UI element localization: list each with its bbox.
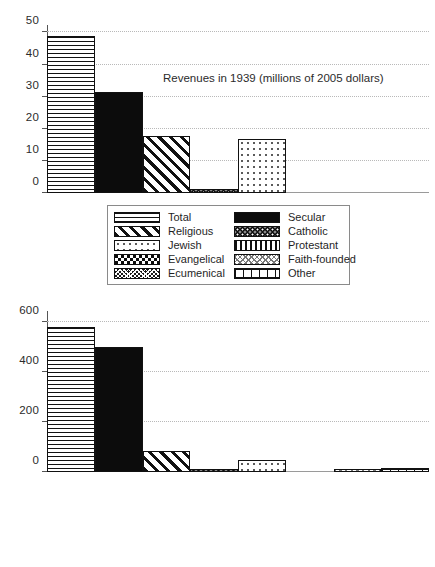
legend-label-other-1939: Other bbox=[288, 268, 360, 279]
bar-jewish-1939 bbox=[238, 139, 286, 193]
y-tick-label-0-1939: 0 bbox=[5, 175, 39, 187]
legend-swatch-ecumenical-1939 bbox=[114, 268, 160, 279]
bar-religious-1939 bbox=[143, 136, 191, 193]
bar-series-1941 bbox=[47, 312, 429, 472]
y-tick-label-400-1941: 400 bbox=[5, 354, 39, 366]
bar-total-1939 bbox=[47, 36, 95, 193]
y-tick-label-20-1939: 20 bbox=[5, 111, 39, 123]
plot-area-1941: 0200400600 bbox=[47, 312, 429, 472]
bar-catholic-1941 bbox=[190, 469, 238, 472]
plot-area-1939: 01020304050 bbox=[47, 26, 429, 193]
legend-swatch-catholic-1939 bbox=[234, 226, 280, 237]
legend-label-ecumenical-1939: Ecumenical bbox=[168, 268, 230, 279]
bar-secular-1939 bbox=[95, 92, 143, 193]
legend-grid-1939: TotalSecularReligiousCatholicJewishProte… bbox=[114, 210, 343, 281]
y-tick-label-10-1939: 10 bbox=[5, 143, 39, 155]
bar-faith-founded-1941 bbox=[334, 469, 382, 472]
legend-swatch-other-1939 bbox=[234, 268, 280, 279]
chart-revenues-1939: Revenues in 1939 (millions of 2005 dolla… bbox=[0, 0, 435, 290]
legend-label-faith-founded-1939: Faith-founded bbox=[288, 254, 360, 265]
legend-label-protestant-1939: Protestant bbox=[288, 240, 360, 251]
legend-label-catholic-1939: Catholic bbox=[288, 226, 360, 237]
bar-religious-1941 bbox=[143, 451, 191, 472]
bar-jewish-1941 bbox=[238, 460, 286, 472]
legend-swatch-religious-1939 bbox=[114, 226, 160, 237]
legend-swatch-faith-founded-1939 bbox=[234, 254, 280, 265]
y-tick-label-40-1939: 40 bbox=[5, 47, 39, 59]
legend-swatch-secular-1939 bbox=[234, 212, 280, 223]
chart-revenues-1941: Revenues in 1941 (millions of 2005 dolla… bbox=[0, 290, 435, 567]
y-tick-label-600-1941: 600 bbox=[5, 304, 39, 316]
legend-swatch-total-1939 bbox=[114, 212, 160, 223]
y-tick-label-30-1939: 30 bbox=[5, 79, 39, 91]
bar-other-1941 bbox=[381, 468, 429, 472]
legend-swatch-jewish-1939 bbox=[114, 240, 160, 251]
legend-label-total-1939: Total bbox=[168, 212, 230, 223]
legend-label-secular-1939: Secular bbox=[288, 212, 360, 223]
bar-series-1939 bbox=[47, 26, 429, 193]
legend-label-jewish-1939: Jewish bbox=[168, 240, 230, 251]
bar-total-1941 bbox=[47, 327, 95, 472]
y-tick-label-0-1941: 0 bbox=[5, 454, 39, 466]
y-tick-label-200-1941: 200 bbox=[5, 404, 39, 416]
bar-catholic-1939 bbox=[190, 189, 238, 193]
legend-swatch-protestant-1939 bbox=[234, 240, 280, 251]
legend-label-evangelical-1939: Evangelical bbox=[168, 254, 230, 265]
legend-1939: TotalSecularReligiousCatholicJewishProte… bbox=[107, 205, 350, 285]
legend-label-religious-1939: Religious bbox=[168, 226, 230, 237]
legend-swatch-evangelical-1939 bbox=[114, 254, 160, 265]
y-tick-label-50-1939: 50 bbox=[5, 14, 39, 26]
bar-secular-1941 bbox=[95, 347, 143, 472]
